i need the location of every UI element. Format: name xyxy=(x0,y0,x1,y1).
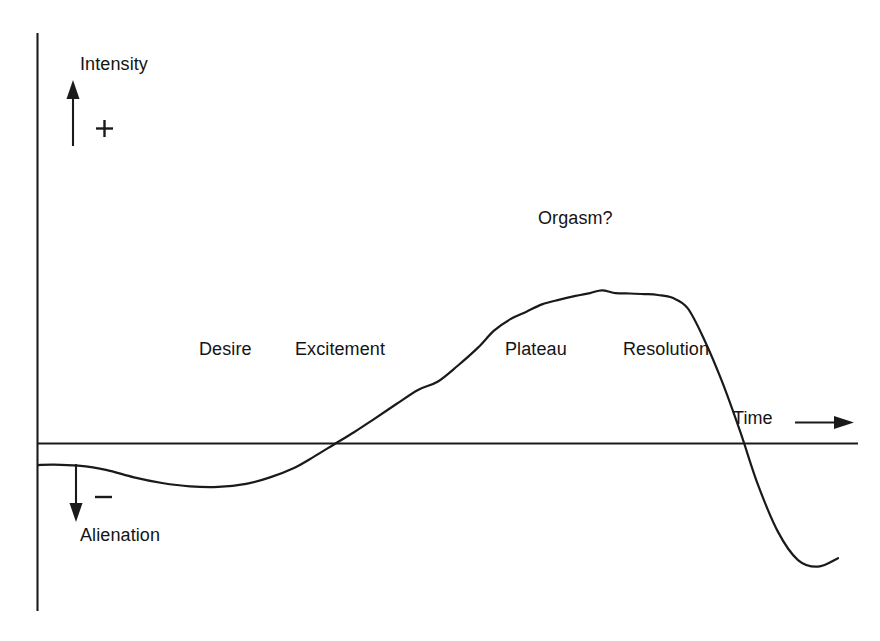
phase-label-desire: Desire xyxy=(199,340,252,358)
up-arrow-icon xyxy=(67,80,80,146)
phase-label-resolution: Resolution xyxy=(623,340,709,358)
down-arrow-icon xyxy=(70,464,83,522)
sexual-response-cycle-chart: Intensity Alienation Time Desire Excitem… xyxy=(0,0,880,641)
phase-label-orgasm: Orgasm? xyxy=(538,209,613,227)
x-axis-label: Time xyxy=(733,409,773,427)
plus-sign-icon xyxy=(96,120,113,137)
right-arrow-icon xyxy=(795,416,854,429)
y-axis-negative-label: Alienation xyxy=(80,526,160,544)
y-axis-positive-label: Intensity xyxy=(80,55,148,73)
phase-label-plateau: Plateau xyxy=(505,340,567,358)
phase-label-excitement: Excitement xyxy=(295,340,385,358)
